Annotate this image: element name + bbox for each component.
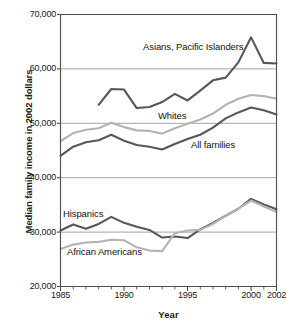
series-label: Asians, Pacific Islanders bbox=[143, 42, 243, 52]
x-axis-major-ticks bbox=[61, 287, 277, 292]
series-lines bbox=[61, 37, 277, 251]
x-axis-title: Year bbox=[60, 309, 277, 320]
series-label: All families bbox=[191, 140, 235, 150]
series-label: Whites bbox=[158, 111, 186, 121]
chart-figure: Median family income in 2002 dollars 20,… bbox=[0, 0, 287, 328]
series-label: African Americans bbox=[67, 247, 142, 257]
series-label: Hispanics bbox=[63, 209, 103, 219]
